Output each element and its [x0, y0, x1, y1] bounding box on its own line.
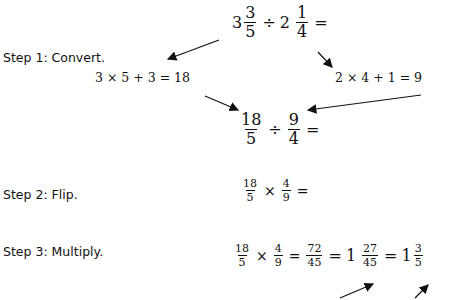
mixed-result-numerator: 27: [362, 243, 378, 255]
arrow-to-mixed-result: [340, 284, 373, 298]
equals-sign: =: [384, 246, 397, 265]
step-2-label: Step 2: Flip.: [3, 187, 78, 202]
mixed-b-whole: 2: [280, 13, 290, 32]
mult-a-numerator: 18: [234, 243, 250, 255]
product-denominator: 45: [306, 255, 322, 268]
equals-sign: =: [289, 248, 301, 264]
product-numerator: 72: [306, 243, 322, 255]
mixed-a-numerator: 3: [244, 5, 256, 22]
equals-sign: =: [328, 246, 341, 265]
equals-sign: =: [297, 183, 309, 199]
arrow-to-final-result: [415, 285, 428, 298]
mixed-result-denominator: 45: [362, 255, 378, 268]
mixed-result-whole: 1: [346, 246, 356, 265]
flip-a-numerator: 18: [242, 178, 258, 190]
flip-expression: 185 × 49 =: [240, 178, 312, 203]
improper-a-denominator: 5: [245, 129, 257, 147]
improper-b-numerator: 9: [288, 112, 300, 129]
equals-sign: =: [314, 13, 327, 32]
original-problem: 3 35 ÷ 2 14 =: [232, 5, 332, 40]
mixed-a-whole: 3: [232, 13, 242, 32]
convert-left-calc: 3 × 5 + 3 = 18: [95, 70, 190, 85]
mixed-b-denominator: 4: [296, 22, 308, 40]
equals-sign: =: [306, 120, 319, 139]
multiply-operator: ×: [256, 248, 268, 264]
final-result-denominator: 5: [414, 255, 423, 268]
flip-b-numerator: 4: [282, 178, 291, 190]
improper-expression: 185 ÷ 94 =: [238, 112, 323, 147]
improper-b-denominator: 4: [288, 129, 300, 147]
divide-operator: ÷: [262, 13, 275, 32]
final-result-numerator: 3: [414, 243, 423, 255]
step-1-label: Step 1: Convert.: [3, 50, 105, 65]
flip-a-denominator: 5: [246, 190, 255, 203]
improper-a-numerator: 18: [240, 112, 262, 129]
multiply-operator: ×: [264, 183, 276, 199]
mult-b-numerator: 4: [274, 243, 283, 255]
arrow-to-improper-numerator-a: [205, 96, 238, 110]
mult-b-denominator: 9: [274, 255, 283, 268]
step-3-label: Step 3: Multiply.: [3, 244, 103, 259]
flip-b-denominator: 9: [282, 190, 291, 203]
divide-operator: ÷: [268, 120, 281, 139]
arrow-to-right-calc: [318, 52, 332, 67]
arrow-to-improper-numerator-b: [308, 95, 421, 110]
multiply-expression: 185 × 49 = 7245 = 1 2745 = 1 35: [232, 243, 425, 268]
final-result-whole: 1: [401, 246, 411, 265]
mixed-b-numerator: 1: [296, 5, 308, 22]
mixed-a-denominator: 5: [244, 22, 256, 40]
arrow-to-left-calc: [168, 40, 219, 59]
convert-right-calc: 2 × 4 + 1 = 9: [335, 70, 422, 85]
mult-a-denominator: 5: [238, 255, 247, 268]
